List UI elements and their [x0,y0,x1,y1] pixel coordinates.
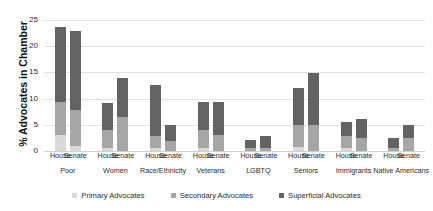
bar-native-americans-house [388,138,399,151]
bar-veterans-senate [213,102,224,151]
legend-item: Primary Advocates [72,192,144,200]
bar-segment-superficial [165,125,176,141]
legend-item: Superficial Advocates [279,192,361,200]
bar-seniors-senate [308,73,319,151]
x-axis-chamber-label: Senate [344,152,378,160]
bar-segment-superficial [245,140,256,148]
x-axis-chamber-label: Senate [201,152,235,160]
bar-segment-superficial [293,88,304,125]
bar-lgbtq-senate [260,136,271,151]
bar-segment-secondary [293,125,304,148]
y-axis-tick-label: 0 [14,147,38,155]
bar-segment-secondary [117,117,128,151]
bar-immigrants-house [341,122,352,151]
plot-area: 0510152025 [44,20,425,151]
bar-segment-superficial [70,31,81,110]
bar-segment-superficial [260,136,271,149]
y-axis-title: % Advocates in Chamber [17,9,29,159]
legend-label: Secondary Advocates [180,192,253,200]
legend-swatch-icon [72,193,77,198]
bar-lgbtq-house [245,140,256,151]
bar-poor-house [55,27,66,151]
bar-segment-secondary [403,138,414,151]
x-axis-chamber-label: Senate [296,152,330,160]
bar-segment-superficial [117,78,128,117]
bar-segment-secondary [55,102,66,135]
x-axis-labels: HouseSenatePoorHouseSenateWomenHouseSena… [44,152,425,192]
legend-swatch-icon [279,193,284,198]
legend-label: Superficial Advocates [288,192,361,200]
bar-segment-secondary [150,136,161,148]
bar-segment-secondary [102,130,113,148]
bar-race-ethnicity-senate [165,125,176,151]
bar-chart: % Advocates in Chamber 0510152025 HouseS… [0,0,433,211]
x-axis-chamber-label: Senate [392,152,426,160]
bar-segment-superficial [102,103,113,130]
bar-segment-secondary [165,141,176,151]
bar-segment-superficial [308,73,319,125]
bar-segment-superficial [213,102,224,136]
bar-seniors-house [293,88,304,151]
bar-segment-superficial [55,27,66,102]
bar-segment-superficial [198,102,209,130]
bar-segment-secondary [308,125,319,151]
legend-swatch-icon [171,193,176,198]
legend-label: Primary Advocates [81,192,144,200]
y-axis-tick-label: 25 [14,16,38,24]
chart-legend: Primary AdvocatesSecondary AdvocatesSupe… [0,192,433,200]
bar-segment-superficial [150,85,161,136]
y-axis-tick-label: 5 [14,121,38,129]
bar-series-container [44,20,425,151]
bar-segment-superficial [356,119,367,138]
bar-women-house [102,103,113,151]
bar-segment-superficial [403,125,414,139]
bar-poor-senate [70,31,81,151]
y-axis-tick-label: 10 [14,95,38,103]
bar-segment-superficial [388,138,399,148]
x-axis-chamber-label: Senate [58,152,92,160]
bar-native-americans-senate [403,125,414,151]
x-axis-chamber-label: Senate [154,152,188,160]
bar-segment-secondary [213,135,224,151]
x-axis-group-label: Native Americans [373,166,429,175]
x-axis-chamber-label: Senate [249,152,283,160]
bar-segment-secondary [70,110,81,147]
bar-women-senate [117,78,128,151]
bar-segment-secondary [341,136,352,148]
y-axis-tick-label: 20 [14,42,38,50]
bar-veterans-house [198,102,209,151]
bar-immigrants-senate [356,119,367,151]
bar-segment-secondary [198,130,209,148]
bar-race-ethnicity-house [150,85,161,151]
bar-segment-superficial [341,122,352,136]
x-axis-chamber-label: Senate [106,152,140,160]
bar-segment-secondary [356,138,367,151]
bar-segment-primary [55,135,66,151]
legend-item: Secondary Advocates [171,192,253,200]
y-axis-tick-label: 15 [14,68,38,76]
